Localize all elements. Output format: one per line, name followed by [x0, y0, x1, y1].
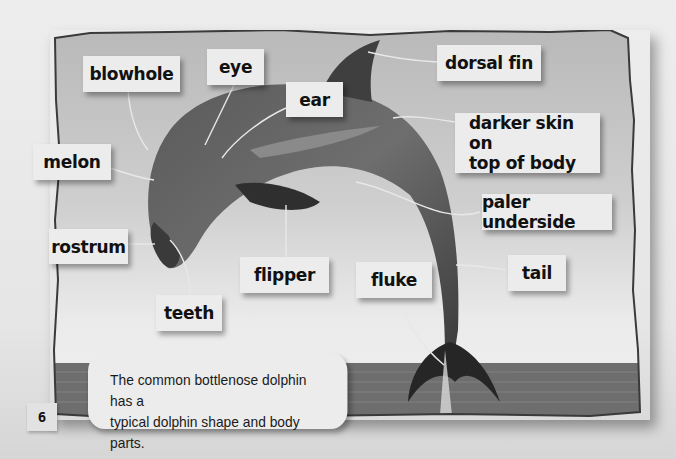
caption-box: The common bottlenose dolphin has a typi… — [88, 353, 347, 429]
page-number: 6 — [27, 403, 57, 431]
label-tail: tail — [508, 255, 566, 291]
label-paler-underside: paler underside — [482, 194, 612, 230]
caption-line-2: typical dolphin shape and body parts. — [110, 411, 331, 453]
label-teeth: teeth — [156, 295, 222, 331]
label-ear: ear — [286, 82, 343, 117]
label-flipper: flipper — [240, 257, 329, 293]
label-darker-skin-line2: top of body — [469, 153, 576, 173]
label-rostrum: rostrum — [49, 229, 128, 264]
label-blowhole: blowhole — [83, 56, 180, 92]
label-darker-skin-line1: darker skin on — [469, 113, 600, 153]
caption-line-1: The common bottlenose dolphin has a — [110, 369, 331, 411]
label-darker-skin: darker skin on top of body — [455, 113, 600, 173]
label-fluke: fluke — [356, 262, 432, 298]
label-melon: melon — [33, 144, 111, 180]
label-dorsal-fin: dorsal fin — [437, 45, 541, 81]
label-eye: eye — [207, 49, 264, 85]
